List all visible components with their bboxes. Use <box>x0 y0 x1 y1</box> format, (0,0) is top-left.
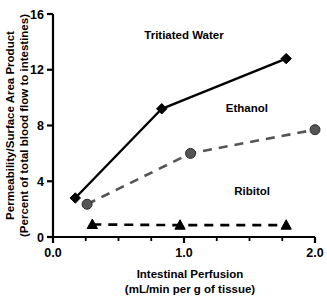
y-tick-label-16: 16 <box>30 8 44 22</box>
y-tick-label-12: 12 <box>30 63 44 77</box>
marker-circle <box>82 199 92 209</box>
x-tick-label-0.0: 0.0 <box>44 246 61 260</box>
chart-canvas: 04812160.01.02.0 Tritiated WaterEthanolR… <box>0 0 327 302</box>
series-ribitol <box>87 219 291 229</box>
series-label-ribitol: Ribitol <box>234 185 270 197</box>
data-series <box>70 53 320 229</box>
marker-diamond <box>281 53 291 63</box>
series-line-tritiated-water <box>75 59 286 198</box>
x-tick-label-1.0: 1.0 <box>175 246 192 260</box>
y-axis-units: (Percent of total blood flow to intestin… <box>18 14 30 237</box>
marker-circle <box>186 148 196 158</box>
chart-figure: 04812160.01.02.0 Tritiated WaterEthanolR… <box>0 0 327 302</box>
series-label-ethanol: Ethanol <box>226 102 268 114</box>
x-axis-title: Intestinal Perfusion <box>137 268 244 280</box>
series-ethanol <box>82 125 320 210</box>
x-tick-label-2.0: 2.0 <box>306 246 323 260</box>
marker-triangle <box>281 220 291 229</box>
axis-tick-labels: 04812160.01.02.0 <box>30 8 324 261</box>
series-tritiated-water <box>70 53 291 203</box>
series-line-ribitol <box>92 224 286 225</box>
y-axis-title: Permeability/Surface Area Product <box>4 31 16 220</box>
marker-circle <box>310 125 320 135</box>
axis-titles: Intestinal Perfusion(mL/min per g of tis… <box>4 14 255 295</box>
x-axis-units: (mL/min per g of tissue) <box>125 283 256 295</box>
series-line-ethanol <box>87 130 315 205</box>
y-tick-label-4: 4 <box>37 175 44 189</box>
series-label-tritiated-water: Tritiated Water <box>144 29 224 41</box>
y-tick-label-0: 0 <box>37 231 44 245</box>
y-tick-label-8: 8 <box>37 119 44 133</box>
